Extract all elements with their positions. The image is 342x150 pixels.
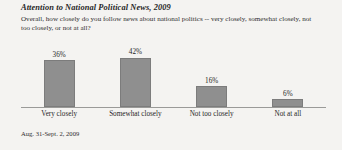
x-tick-label: Very closely <box>21 110 97 118</box>
x-tick-label: Not at all <box>250 110 326 118</box>
x-axis-baseline <box>21 107 326 108</box>
bar-group-not-at-all: 6% <box>250 48 326 107</box>
bar-value-label: 16% <box>205 77 218 85</box>
x-tick-label: Somewhat closely <box>97 110 173 118</box>
chart-figure: Attention to National Political News, 20… <box>0 0 342 150</box>
bar-not-too-closely <box>196 86 227 107</box>
bar-value-label: 42% <box>129 48 142 56</box>
bar-group-somewhat-closely: 42% <box>97 48 173 107</box>
bar-not-at-all <box>272 99 303 107</box>
x-tick-label: Not too closely <box>174 110 250 118</box>
bar-value-label: 36% <box>53 51 66 59</box>
chart-footnote: Aug. 31-Sept. 2, 2009 <box>21 130 79 137</box>
bar-value-label: 6% <box>283 90 293 98</box>
x-axis-tick-labels: Very closely Somewhat closely Not too cl… <box>21 110 326 118</box>
bar-somewhat-closely <box>120 58 151 108</box>
chart-title: Attention to National Political News, 20… <box>21 3 171 12</box>
bar-very-closely <box>44 60 75 107</box>
chart-subtitle: Overall, how closely do you follow news … <box>21 15 321 33</box>
plot-area: 36% 42% 16% 6% <box>21 48 326 108</box>
bar-group-not-too-closely: 16% <box>174 48 250 107</box>
bar-series: 36% 42% 16% 6% <box>21 48 326 107</box>
bar-group-very-closely: 36% <box>21 48 97 107</box>
